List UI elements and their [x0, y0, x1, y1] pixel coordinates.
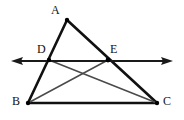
figure-canvas [0, 0, 184, 120]
point-C-dot [155, 101, 159, 105]
geometry-figure: A D E B C [0, 0, 184, 120]
cevian-segments [28, 60, 157, 103]
line-DE-extended [11, 57, 173, 65]
point-label-B: B [12, 95, 20, 107]
point-B-dot [26, 101, 30, 105]
point-label-D: D [37, 43, 46, 55]
point-label-C: C [163, 95, 171, 107]
point-E-dot [106, 58, 111, 63]
point-label-E: E [110, 43, 117, 55]
point-label-A: A [51, 4, 60, 16]
segment-DC [49, 60, 157, 103]
segment-BE [28, 60, 108, 103]
point-A-dot [65, 18, 69, 22]
point-D-dot [47, 58, 51, 62]
